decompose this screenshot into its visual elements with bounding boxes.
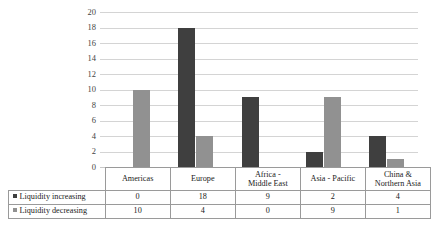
y-tick-label-8: 8 [76, 101, 96, 110]
table-column-header: Africa -Middle East [235, 168, 300, 191]
y-tick-label-4: 4 [76, 132, 96, 141]
data-table-body: AmericasEuropeAfrica -Middle EastAsia - … [9, 168, 431, 219]
y-tick-label-2: 2 [76, 147, 96, 156]
y-tick-label-6: 6 [76, 116, 96, 125]
bar-decreasing [133, 90, 150, 168]
y-axis: 20181614121086420 [76, 0, 96, 180]
y-tick-label-18: 18 [76, 23, 96, 32]
data-table: AmericasEuropeAfrica -Middle EastAsia - … [8, 167, 431, 219]
table-cell-value: 0 [105, 191, 170, 205]
table-cell-value: 9 [235, 191, 300, 205]
bar-increasing [306, 152, 323, 168]
table-cell-value: 1 [365, 205, 430, 219]
bar-increasing [369, 136, 386, 167]
table-cell-value: 10 [105, 205, 170, 219]
table-row: Liquidity increasing018924 [9, 191, 431, 205]
table-cell-value: 4 [365, 191, 430, 205]
table-cell-value: 2 [300, 191, 365, 205]
bar-group [227, 12, 291, 167]
bar-group [354, 12, 418, 167]
bar-group [291, 12, 355, 167]
table-header-row: AmericasEuropeAfrica -Middle EastAsia - … [9, 168, 431, 191]
legend-label: Liquidity increasing [20, 192, 86, 201]
y-tick-label-20: 20 [76, 8, 96, 17]
table-cell-value: 9 [300, 205, 365, 219]
table-corner-blank [9, 168, 106, 191]
y-tick-label-12: 12 [76, 70, 96, 79]
bar-increasing [178, 28, 195, 168]
y-tick-label-10: 10 [76, 85, 96, 94]
legend-entry: Liquidity increasing [9, 191, 106, 205]
table-row: Liquidity decreasing104091 [9, 205, 431, 219]
legend-entry: Liquidity decreasing [9, 205, 106, 219]
bar-decreasing [324, 97, 341, 167]
table-cell-value: 18 [170, 191, 235, 205]
table-column-header: Americas [105, 168, 170, 191]
bars-layer [100, 12, 418, 167]
bar-chart-figure: 20181614121086420 AmericasEuropeAfrica -… [0, 0, 431, 227]
legend-swatch-icon [13, 194, 17, 198]
table-cell-value: 4 [170, 205, 235, 219]
bar-decreasing [196, 136, 213, 167]
y-tick-label-16: 16 [76, 39, 96, 48]
bar-decreasing [387, 159, 404, 167]
y-tick-label-14: 14 [76, 54, 96, 63]
bar-group [164, 12, 228, 167]
legend-swatch-icon [13, 208, 17, 212]
table-column-header: China &Northern Asia [365, 168, 430, 191]
bar-group [100, 12, 164, 167]
table-column-header: Europe [170, 168, 235, 191]
bar-increasing [242, 97, 259, 167]
table-column-header: Asia - Pacific [300, 168, 365, 191]
legend-label: Liquidity decreasing [20, 206, 88, 215]
table-cell-value: 0 [235, 205, 300, 219]
